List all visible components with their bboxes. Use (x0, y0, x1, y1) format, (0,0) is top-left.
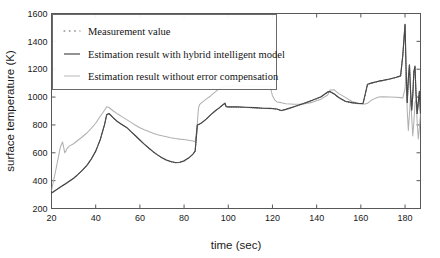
legend[interactable]: Measurement value Estimation result with… (53, 15, 285, 90)
x-tick-label: 80 (179, 213, 189, 223)
x-tick-label: 20 (46, 213, 56, 223)
y-tick-label: 1600 (27, 9, 47, 19)
x-axis-title: time (sec) (211, 239, 262, 251)
y-tick-label: 600 (32, 148, 47, 158)
x-tick-label: 160 (353, 213, 368, 223)
y-tick-label: 800 (32, 120, 47, 130)
chart-canvas[interactable]: 2004006008001000120014001600 20406080100… (0, 0, 440, 258)
x-tick-label: 120 (265, 213, 280, 223)
y-tick-label: 1400 (27, 37, 47, 47)
y-tick-label: 200 (32, 204, 47, 214)
x-axis-tick-labels: 20406080100120140160180 (46, 213, 412, 223)
y-axis-tick-labels: 2004006008001000120014001600 (27, 9, 47, 214)
legend-label-hybrid: Estimation result with hybrid intelligen… (88, 49, 285, 60)
y-tick-label: 1000 (27, 92, 47, 102)
x-tick-label: 60 (135, 213, 145, 223)
y-axis-title: surface temperature (K) (4, 50, 16, 172)
figure-container: 2004006008001000120014001600 20406080100… (0, 0, 440, 258)
x-tick-label: 100 (221, 213, 236, 223)
x-tick-label: 40 (91, 213, 101, 223)
x-tick-label: 140 (309, 213, 324, 223)
legend-label-no-compensation: Estimation result without error compensa… (88, 71, 279, 82)
legend-label-measurement: Measurement value (88, 26, 171, 37)
x-tick-label: 180 (398, 213, 413, 223)
y-tick-label: 400 (32, 176, 47, 186)
y-tick-label: 1200 (27, 64, 47, 74)
